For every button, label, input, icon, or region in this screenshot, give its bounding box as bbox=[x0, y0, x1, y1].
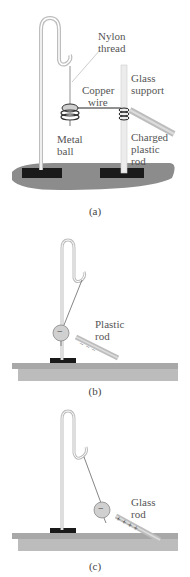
caption-b: (b) bbox=[0, 385, 190, 397]
caption-a: (a) bbox=[0, 205, 190, 217]
label-metal-ball: Metal ball bbox=[57, 133, 83, 157]
label-line: support bbox=[131, 84, 164, 96]
ball-charge-sign: − bbox=[98, 503, 104, 515]
label-glass-rod: Glass rod bbox=[131, 496, 155, 520]
glass-support bbox=[121, 65, 127, 173]
caption-c: (c) bbox=[0, 560, 190, 572]
label-line: Nylon bbox=[98, 30, 126, 42]
label-line: Metal bbox=[57, 133, 83, 145]
apparatus-c-drawing bbox=[0, 405, 190, 577]
label-glass-support: Glass support bbox=[131, 72, 164, 96]
panel-c: − + + + + Glass rod (c) bbox=[0, 405, 190, 577]
label-line: rod bbox=[95, 330, 124, 342]
ball-charge-sign: − bbox=[57, 326, 63, 338]
label-line: rod bbox=[131, 155, 168, 167]
label-line: rod bbox=[131, 508, 155, 520]
label-line: wire bbox=[82, 96, 114, 108]
panel-a: Nylon thread Glass support Copper wire M… bbox=[0, 0, 190, 195]
label-line: Glass bbox=[131, 496, 155, 508]
label-line: ball bbox=[57, 145, 83, 157]
label-line: thread bbox=[98, 42, 126, 54]
label-nylon-thread: Nylon thread bbox=[98, 30, 126, 54]
label-line: Glass bbox=[131, 72, 164, 84]
label-copper-wire: Copper wire bbox=[82, 84, 114, 108]
nylon-thread bbox=[64, 280, 82, 325]
nylon-thread bbox=[84, 457, 101, 503]
label-plastic-rod: Plastic rod bbox=[95, 318, 124, 342]
label-line: Plastic bbox=[95, 318, 124, 330]
table-surface bbox=[12, 363, 178, 369]
panel-b: − − − − Plastic rod (b) bbox=[0, 230, 190, 390]
label-line: Copper bbox=[82, 84, 114, 96]
apparatus-b-drawing bbox=[0, 230, 190, 390]
label-line: plastic bbox=[131, 143, 168, 155]
label-line: Charged bbox=[131, 131, 168, 143]
label-charged-plastic-rod: Charged plastic rod bbox=[131, 131, 168, 167]
